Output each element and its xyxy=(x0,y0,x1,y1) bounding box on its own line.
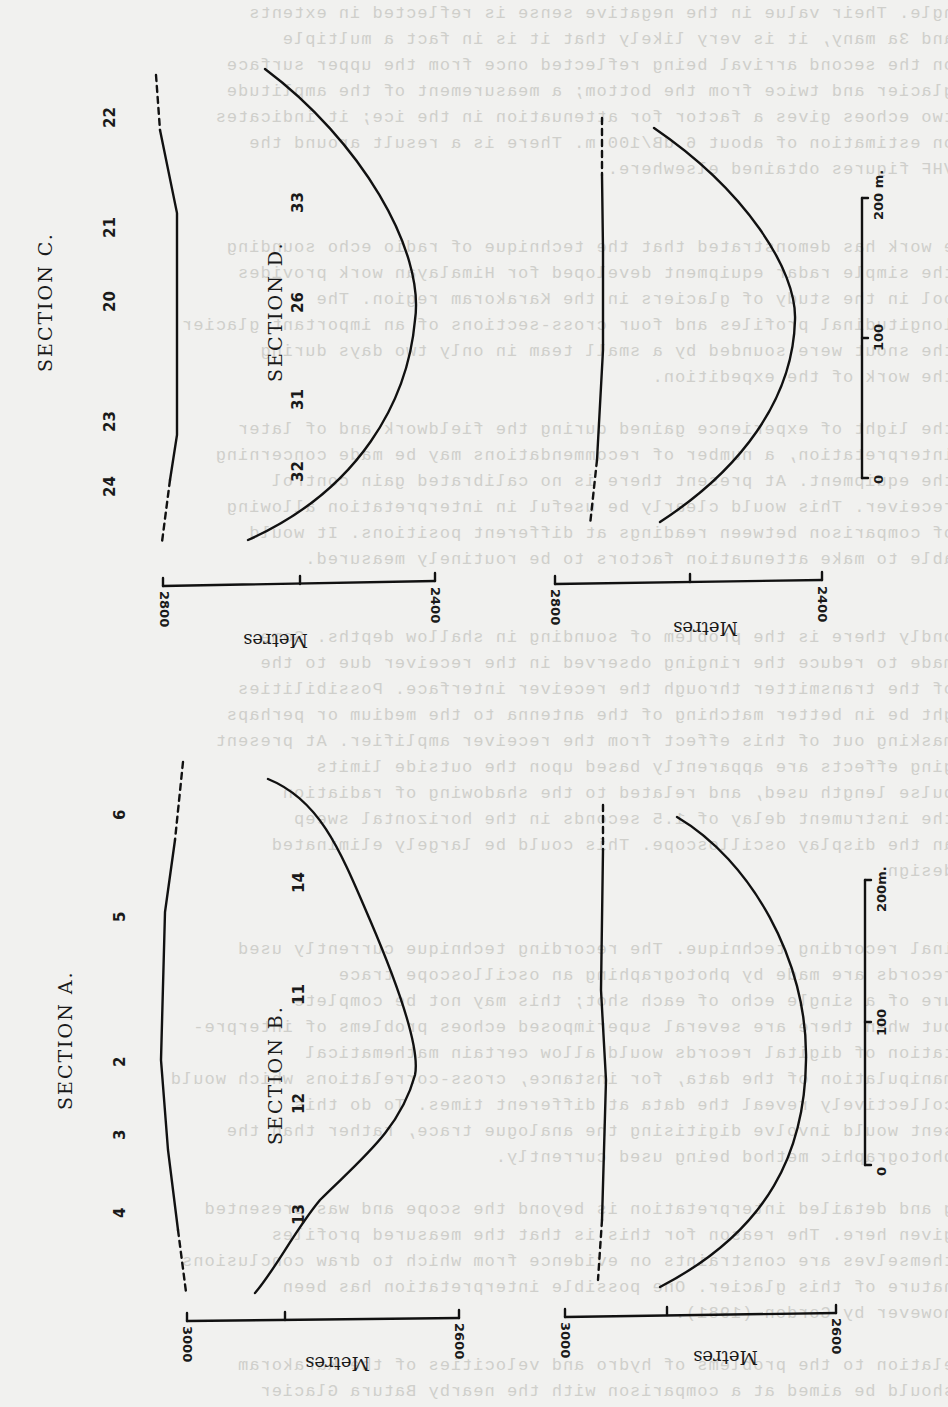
scale-tick-label: 200m. xyxy=(874,866,889,912)
station-label: 32 xyxy=(289,461,307,482)
station-label: 31 xyxy=(289,389,307,410)
section-a-surface-dashed-top xyxy=(175,762,183,840)
axis-tick-label: 2600 xyxy=(829,1318,844,1354)
section-a-elevation-axis xyxy=(187,1310,459,1321)
station-label: 14 xyxy=(290,872,308,893)
scale-tick-label: 200 m. xyxy=(871,170,886,220)
station-label: 20 xyxy=(101,291,119,312)
section-b-bed xyxy=(660,817,806,1287)
station-label: 5 xyxy=(111,912,129,922)
section-c-surface-dashed-top xyxy=(156,75,160,130)
axis-tick-label: 2400 xyxy=(815,586,830,622)
axis-tick-label: 2400 xyxy=(428,587,443,623)
section-c-elevation-axis xyxy=(163,573,435,586)
station-label: 6 xyxy=(111,810,129,820)
station-label: 2 xyxy=(111,1057,129,1067)
scale-tick-label: 100 xyxy=(871,324,886,351)
scale-bar-upper xyxy=(862,198,868,478)
scale-tick-label: 0 xyxy=(874,1167,889,1176)
section-b-title: SECTION B. xyxy=(264,1005,286,1145)
station-label: 13 xyxy=(290,1204,308,1225)
station-label: 4 xyxy=(111,1208,129,1218)
scale-bar-lower xyxy=(865,880,871,1165)
station-label: 23 xyxy=(101,411,119,432)
section-c-surface xyxy=(160,130,177,480)
axis-title-metres: Metres xyxy=(693,1347,758,1368)
section-d-elevation-axis xyxy=(555,572,822,584)
section-b-surface xyxy=(601,850,606,1220)
section-a-surface-dashed-bottom xyxy=(178,1230,186,1292)
station-label: 26 xyxy=(289,292,307,313)
section-d-title: SECTION D. xyxy=(264,242,286,382)
section-d-surface xyxy=(597,175,603,460)
section-d-profile xyxy=(590,118,795,525)
station-label: 11 xyxy=(290,984,308,1005)
axis-title-metres: Metres xyxy=(243,630,308,651)
scanned-page: ngle. Their value in the negative sense … xyxy=(0,0,948,1407)
section-a-surface xyxy=(161,840,178,1230)
station-label: 33 xyxy=(289,192,307,213)
station-label: 24 xyxy=(101,476,119,497)
axis-tick-label: 2800 xyxy=(548,589,563,625)
station-label: 21 xyxy=(101,217,119,238)
section-a-profile xyxy=(161,762,416,1293)
axis-title-metres: Metres xyxy=(673,618,738,639)
section-d-bed xyxy=(654,128,795,522)
section-d-surface-dashed-bottom xyxy=(590,460,597,525)
section-b-profile xyxy=(598,805,806,1287)
axis-tick-label: 3000 xyxy=(180,1326,195,1362)
station-label: 3 xyxy=(111,1130,129,1140)
axis-tick-label: 3000 xyxy=(558,1322,573,1358)
section-c-profile xyxy=(156,69,416,542)
scale-tick-label: 100 xyxy=(874,1009,889,1036)
section-b-surface-dashed-bottom xyxy=(598,1220,602,1280)
axis-tick-label: 2800 xyxy=(157,591,172,627)
scale-tick-label: 0 xyxy=(871,475,886,484)
section-b-elevation-axis xyxy=(565,1305,836,1317)
axis-title-metres: Metres xyxy=(305,1353,370,1374)
section-c-title: SECTION C. xyxy=(34,232,56,372)
glacier-cross-section-figure: SECTION C. 22 21 20 23 24 SECTION D. 33 … xyxy=(0,0,948,1407)
section-a-title: SECTION A. xyxy=(54,970,76,1110)
section-c-surface-dashed-bottom xyxy=(162,480,170,542)
axis-tick-label: 2600 xyxy=(452,1323,467,1359)
station-label: 22 xyxy=(101,107,119,128)
station-label: 12 xyxy=(290,1093,308,1114)
